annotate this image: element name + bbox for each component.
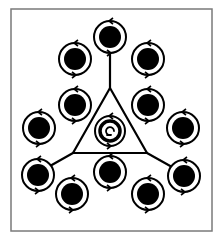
node-bottom-center: [94, 153, 126, 191]
filled-disc: [28, 117, 50, 139]
filled-disc: [99, 161, 121, 183]
filled-disc: [27, 164, 49, 186]
center-node: [95, 113, 125, 149]
diagram-canvas: [0, 0, 220, 242]
node-side-left: [23, 109, 55, 147]
filled-disc: [173, 165, 195, 187]
filled-disc: [64, 94, 86, 116]
filled-disc: [137, 48, 159, 70]
node-top: [94, 18, 126, 56]
connector-line-base-left-to-lower-left: [50, 153, 73, 166]
node-upper-left: [59, 40, 91, 78]
filled-disc: [137, 94, 159, 116]
filled-disc: [64, 48, 86, 70]
node-bottom-left: [56, 175, 88, 213]
node-side-right: [167, 109, 199, 147]
filled-disc: [137, 183, 159, 205]
connector-line-base-right-to-lower-right: [147, 153, 172, 167]
filled-disc: [99, 26, 121, 48]
circle-network-diagram: [0, 0, 220, 242]
node-mid-right: [132, 86, 164, 124]
node-mid-left: [59, 86, 91, 124]
center-thick-ring: [100, 121, 120, 141]
filled-disc: [172, 117, 194, 139]
filled-disc: [61, 183, 83, 205]
node-bottom-right: [132, 175, 164, 213]
node-upper-right: [132, 40, 164, 78]
node-lower-right: [168, 157, 200, 195]
node-lower-left: [22, 156, 54, 194]
